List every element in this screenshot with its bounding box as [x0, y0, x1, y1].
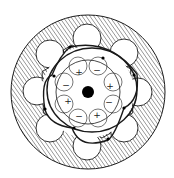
node-point — [43, 107, 46, 110]
charge-sign: + — [106, 81, 114, 91]
charge-sign: − — [75, 111, 83, 121]
node-point — [132, 73, 135, 76]
node-point — [72, 126, 75, 129]
node-point — [106, 137, 109, 140]
charge-sign: − — [93, 65, 101, 75]
node-point — [68, 45, 71, 48]
node-point — [52, 74, 55, 77]
charge-sign: + — [75, 67, 83, 77]
charge-sign: + — [93, 110, 101, 120]
charge-sign: + — [64, 96, 72, 106]
charge-sign: − — [105, 97, 113, 107]
charge-sign: − — [62, 80, 70, 90]
rotor-cross-section-diagram: +−+−+−+− — [0, 0, 174, 178]
node-point — [101, 56, 104, 59]
center-dot — [82, 86, 94, 98]
node-point — [122, 106, 125, 109]
center-dot-circle — [82, 86, 94, 98]
